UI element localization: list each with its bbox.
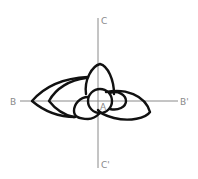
- label-c-prime-bottom: C': [101, 160, 110, 170]
- label-b-prime-right: B': [180, 97, 189, 107]
- label-a-center: A: [100, 102, 107, 112]
- label-b-left: B: [10, 97, 16, 107]
- label-c-top: C: [101, 16, 107, 26]
- petal-diagram: C C' B B' A: [0, 0, 198, 179]
